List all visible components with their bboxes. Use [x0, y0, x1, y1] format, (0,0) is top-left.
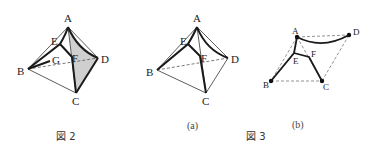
panel-b-sublabel: (b) — [292, 119, 304, 131]
vertex-label-G: G — [52, 54, 60, 66]
vertex-label-F: F — [201, 52, 207, 64]
vertex-label-D: D — [353, 27, 360, 37]
figure-canvas: A E F D G B C 図 2 A E F D B C (a) 図 3 — [0, 0, 374, 154]
vertex-label-F: F — [311, 49, 316, 59]
vertex-label-D: D — [231, 53, 239, 65]
point-B — [269, 79, 273, 83]
vertex-label-C: C — [323, 82, 329, 92]
vertex-label-A: A — [64, 12, 72, 24]
point-D — [347, 33, 351, 37]
vertex-label-F: F — [72, 52, 78, 64]
edge-BC — [28, 69, 76, 93]
figure-3b-net: A D E F B C (b) — [263, 26, 360, 131]
edge-CD — [206, 58, 228, 93]
figure-3-caption: 図 3 — [246, 131, 266, 142]
vertex-label-C: C — [202, 95, 209, 107]
dashed-AD — [297, 35, 349, 37]
vertex-label-B: B — [146, 66, 153, 78]
vertex-label-C: C — [72, 95, 79, 107]
vertex-label-D: D — [101, 53, 109, 65]
figure-2-tetrahedron: A E F D G B C 図 2 — [17, 12, 109, 142]
edge-AB — [157, 27, 197, 70]
vertex-label-B: B — [263, 80, 269, 90]
vertex-label-A: A — [292, 26, 299, 36]
edge-BC — [157, 70, 206, 93]
figure-2-caption: 図 2 — [56, 131, 76, 142]
figure-3a-tetrahedron: A E F D B C (a) — [146, 12, 239, 132]
vertex-label-B: B — [17, 65, 24, 77]
vertex-label-E: E — [293, 56, 299, 66]
vertex-label-A: A — [193, 12, 201, 24]
vertex-label-E: E — [51, 35, 58, 47]
vertex-label-E: E — [180, 35, 187, 47]
panel-a-sublabel: (a) — [187, 120, 198, 132]
